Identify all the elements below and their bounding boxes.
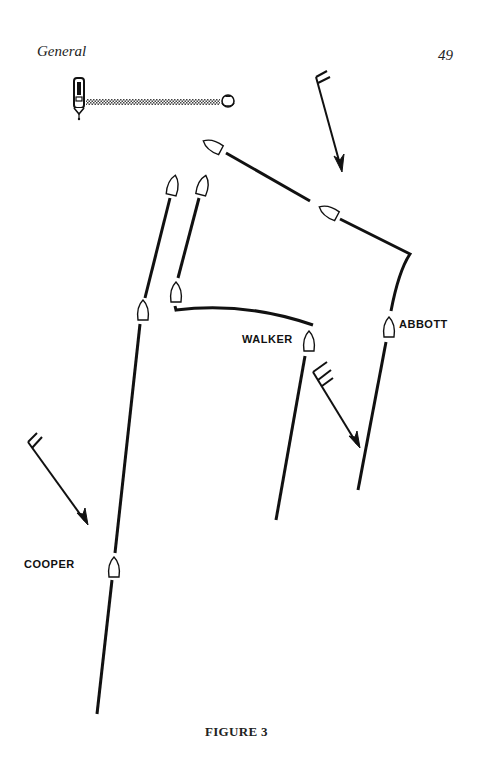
starting-line <box>86 99 220 105</box>
committee-boat-icon <box>74 78 84 120</box>
boat-abbott-icon <box>317 202 340 221</box>
label-abbott: ABBOTT <box>399 318 448 330</box>
boat-abbott-icon <box>384 317 395 337</box>
boat-cooper-icon <box>138 300 149 320</box>
boat-walker-icon <box>196 174 212 196</box>
cooper-track <box>97 198 170 714</box>
walker-track <box>175 198 313 520</box>
label-walker: WALKER <box>242 333 293 345</box>
wind-arrow-icon <box>313 362 360 448</box>
buoy-icon <box>222 95 234 107</box>
boat-walker-icon <box>171 282 182 302</box>
wind-arrow-icon <box>316 71 344 172</box>
wind-arrow-icon <box>28 433 88 525</box>
figure-caption: FIGURE 3 <box>205 724 268 740</box>
label-cooper: COOPER <box>24 558 75 570</box>
boat-walker-icon <box>304 331 315 351</box>
boat-cooper-icon <box>109 557 120 577</box>
sailing-diagram <box>0 0 485 774</box>
abbott-track <box>226 153 410 490</box>
boat-cooper-icon <box>166 174 181 196</box>
boat-abbott-icon <box>201 136 224 155</box>
